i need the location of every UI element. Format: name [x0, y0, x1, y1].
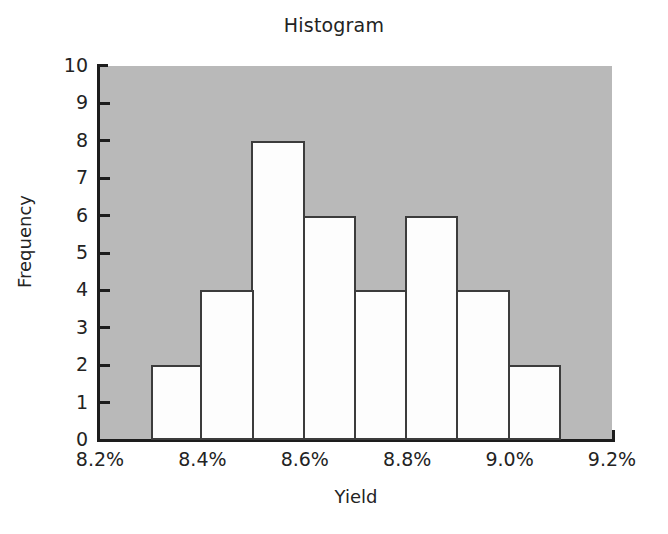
x-axis-tick-label: 9.2% [567, 448, 657, 470]
histogram-bar [405, 216, 459, 440]
histogram-bar [302, 216, 356, 440]
plot-area [100, 66, 612, 440]
x-axis-tick-label: 8.6% [260, 448, 350, 470]
y-axis-tick-label: 4 [28, 278, 88, 300]
bars-layer [100, 66, 612, 440]
y-axis-tick-label: 8 [28, 129, 88, 151]
histogram-bar [354, 290, 408, 440]
y-axis-tick-label: 3 [28, 316, 88, 338]
x-axis-tick-label: 9.0% [465, 448, 555, 470]
y-axis-tick-label: 0 [28, 428, 88, 450]
y-axis-tick [100, 214, 110, 217]
y-axis-tick-label: 6 [28, 204, 88, 226]
y-axis-tick-label: 1 [28, 391, 88, 413]
histogram-figure: Histogram 012345678910 8.2%8.4%8.6%8.8%9… [0, 0, 668, 534]
x-axis-tick-label: 8.2% [55, 448, 145, 470]
y-axis-tick [100, 289, 110, 292]
y-axis-tick [100, 177, 110, 180]
y-axis-tick [100, 326, 110, 329]
y-axis-top-cap [97, 64, 108, 67]
x-axis-tick-label: 8.8% [362, 448, 452, 470]
y-axis-title: Frequency [14, 172, 35, 312]
histogram-bar [200, 290, 254, 440]
y-axis-tick-label: 7 [28, 166, 88, 188]
y-axis-tick-label: 10 [28, 54, 88, 76]
y-axis-tick [100, 252, 110, 255]
y-axis-tick-label: 2 [28, 353, 88, 375]
x-axis-end-cap [612, 430, 615, 442]
y-axis-tick [100, 364, 110, 367]
y-axis-tick [100, 139, 110, 142]
histogram-bar [507, 365, 561, 440]
histogram-bar [151, 365, 202, 440]
y-axis-tick [100, 102, 110, 105]
y-axis-tick-label: 5 [28, 241, 88, 263]
histogram-bar [456, 290, 510, 440]
histogram-bar [251, 141, 305, 440]
y-axis-tick [100, 401, 110, 404]
chart-title: Histogram [0, 14, 668, 36]
x-axis-title: Yield [0, 486, 668, 507]
y-axis-tick-label: 9 [28, 91, 88, 113]
x-axis-tick-label: 8.4% [157, 448, 247, 470]
